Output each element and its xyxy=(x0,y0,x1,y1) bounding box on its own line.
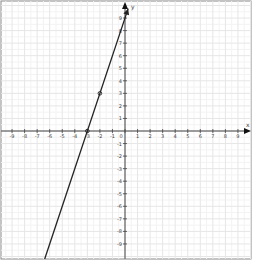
y-tick-label: 6 xyxy=(119,53,122,59)
x-tick-label: 6 xyxy=(199,133,202,139)
x-tick-label: -7 xyxy=(35,133,40,139)
x-tick-label: -9 xyxy=(10,133,15,139)
x-tick-label: 1 xyxy=(136,133,139,139)
x-tick-label: 5 xyxy=(186,133,189,139)
x-tick-label: 9 xyxy=(236,133,239,139)
y-tick-label: -9 xyxy=(117,241,122,247)
x-tick-label: 4 xyxy=(174,133,177,139)
y-tick-label: 9 xyxy=(119,15,122,21)
coordinate-plane: -9-8-7-6-5-4-3-2-10123456789-9-8-7-6-5-4… xyxy=(0,0,254,262)
x-tick-label: -6 xyxy=(47,133,52,139)
y-tick-label: -3 xyxy=(117,166,122,172)
x-tick-label: 7 xyxy=(211,133,214,139)
x-tick-label: -2 xyxy=(97,133,102,139)
plot-border xyxy=(1,1,251,259)
y-tick-label: 7 xyxy=(119,40,122,46)
x-tick-label: -5 xyxy=(60,133,65,139)
x-tick-label: 0 xyxy=(119,133,122,139)
x-tick-label: -1 xyxy=(110,133,115,139)
y-tick-label: -6 xyxy=(117,203,122,209)
y-axis-label: y xyxy=(131,3,135,11)
y-tick-label: 3 xyxy=(119,90,122,96)
x-tick-label: -8 xyxy=(22,133,27,139)
y-tick-label: -2 xyxy=(117,153,122,159)
y-tick-label: 5 xyxy=(119,65,122,71)
y-tick-label: -8 xyxy=(117,228,122,234)
y-tick-label: -4 xyxy=(117,178,122,184)
y-tick-label: -5 xyxy=(117,191,122,197)
x-axis-label: x xyxy=(246,121,250,128)
x-tick-label: 2 xyxy=(149,133,152,139)
y-tick-label: -1 xyxy=(117,141,122,147)
x-tick-label: 3 xyxy=(161,133,164,139)
y-tick-label: 1 xyxy=(119,115,122,121)
y-tick-label: 2 xyxy=(119,103,122,109)
y-tick-label: -7 xyxy=(117,216,122,222)
y-tick-label: 4 xyxy=(119,78,122,84)
x-tick-label: 8 xyxy=(224,133,227,139)
x-tick-label: -4 xyxy=(72,133,77,139)
